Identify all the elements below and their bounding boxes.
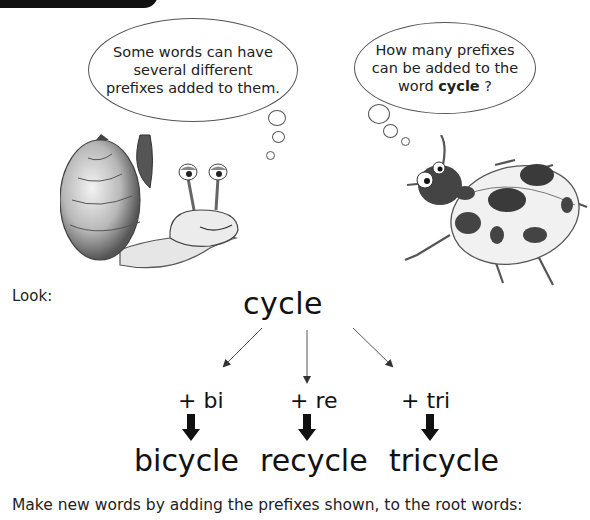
result-word-tricycle: tricycle [389, 443, 499, 478]
result-word-recycle: recycle [260, 443, 368, 478]
instruction-text: Make new words by adding the prefixes sh… [12, 496, 523, 514]
down-arrow-icon [181, 414, 201, 442]
down-arrow-icon [420, 414, 440, 442]
result-word-bicycle: bicycle [134, 443, 239, 478]
prefix-re: + re [290, 388, 338, 413]
down-arrow-icon [297, 414, 317, 442]
branch-arrows [0, 0, 590, 520]
prefix-bi: + bi [178, 388, 224, 413]
prefix-tri: + tri [401, 388, 450, 413]
